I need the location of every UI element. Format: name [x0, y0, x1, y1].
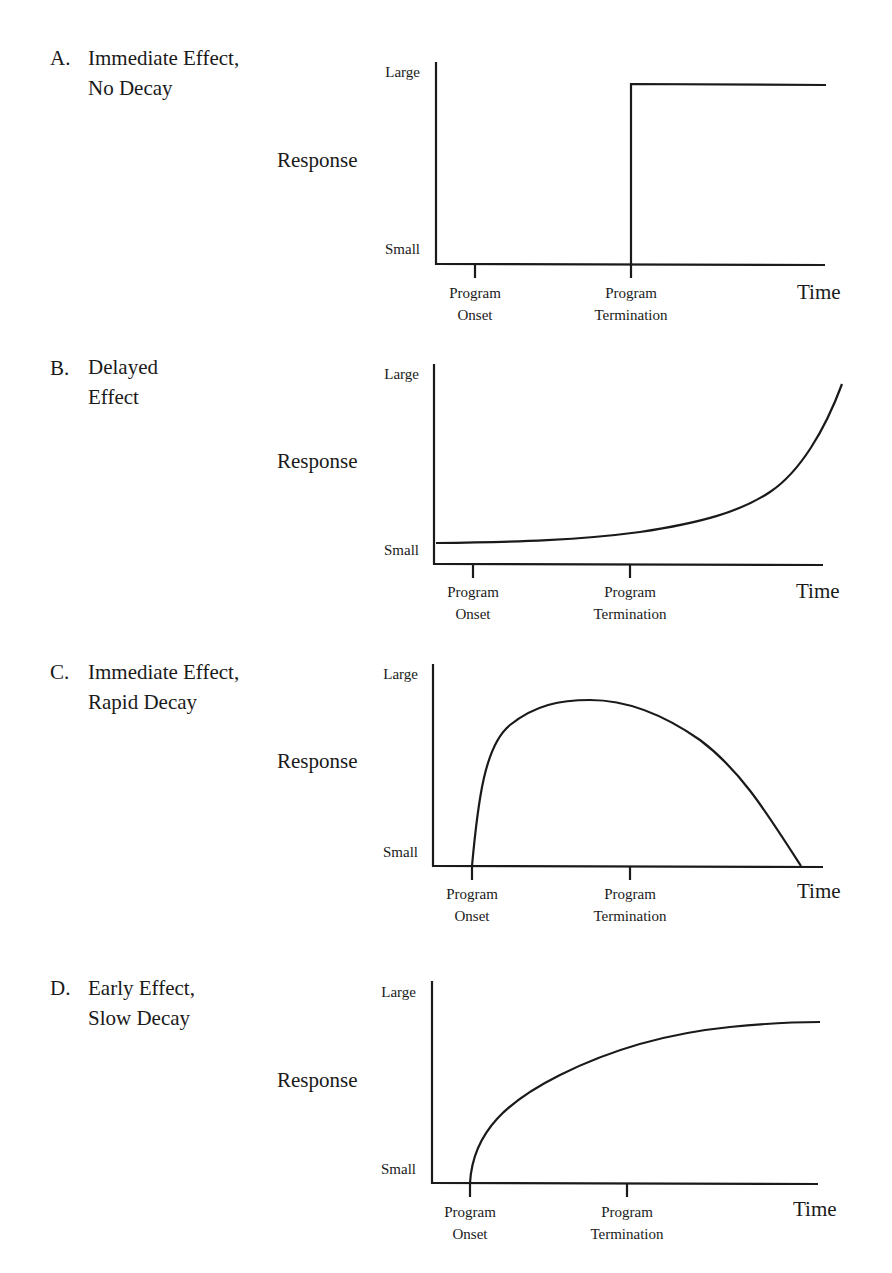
- panel-title-line2: No Decay: [88, 73, 173, 103]
- x-tick-onset: Program Onset: [415, 282, 535, 326]
- panel-b-plot: [433, 364, 842, 578]
- x-tick-termination-line1: Program: [571, 282, 691, 304]
- x-tick-termination-line1: Program: [570, 883, 690, 905]
- x-tick-termination-line2: Termination: [570, 905, 690, 927]
- response-curve: [472, 700, 801, 866]
- response-curve: [436, 384, 842, 543]
- x-tick-onset-line2: Onset: [413, 603, 533, 625]
- x-axis-label: Time: [796, 579, 840, 604]
- y-axis-label: Response: [277, 449, 358, 474]
- panel-title-line1: Immediate Effect,: [88, 43, 239, 73]
- y-tick-large: Large: [356, 984, 416, 1001]
- panel-letter: C.: [50, 660, 69, 685]
- x-tick-termination-line2: Termination: [571, 304, 691, 326]
- x-tick-onset-line2: Onset: [412, 905, 532, 927]
- x-tick-onset-line1: Program: [413, 581, 533, 603]
- x-tick-onset: Program Onset: [410, 1201, 530, 1245]
- y-tick-large: Large: [359, 366, 419, 383]
- x-axis-label: Time: [797, 280, 841, 305]
- y-tick-large: Large: [360, 64, 420, 81]
- x-tick-onset-line1: Program: [410, 1201, 530, 1223]
- y-axis-label: Response: [277, 148, 358, 173]
- x-tick-onset-line2: Onset: [410, 1223, 530, 1245]
- x-tick-termination-line2: Termination: [570, 603, 690, 625]
- x-tick-termination-line1: Program: [567, 1201, 687, 1223]
- panel-letter: B.: [50, 356, 69, 381]
- y-tick-small: Small: [360, 241, 420, 258]
- x-tick-termination: Program Termination: [570, 883, 690, 927]
- x-tick-termination-line2: Termination: [567, 1223, 687, 1245]
- y-tick-small: Small: [356, 1161, 416, 1178]
- panel-d-plot: [431, 981, 820, 1197]
- response-curve: [631, 84, 826, 264]
- panel-title-line1: Delayed: [88, 352, 158, 382]
- panel-letter: A.: [50, 46, 70, 71]
- x-axis: [431, 1183, 818, 1184]
- x-tick-onset-line2: Onset: [415, 304, 535, 326]
- x-axis: [433, 564, 823, 565]
- panel-title-line2: Effect: [88, 382, 139, 412]
- x-axis-label: Time: [797, 879, 841, 904]
- y-tick-small: Small: [358, 844, 418, 861]
- y-axis-label: Response: [277, 1068, 358, 1093]
- panel-a-plot: [435, 62, 826, 278]
- x-tick-onset: Program Onset: [413, 581, 533, 625]
- panel-letter: D.: [50, 976, 70, 1001]
- panel-c-plot: [432, 664, 823, 880]
- y-tick-large: Large: [358, 666, 418, 683]
- x-tick-termination: Program Termination: [571, 282, 691, 326]
- x-axis-label: Time: [793, 1197, 837, 1222]
- panel-title-line1: Early Effect,: [88, 973, 195, 1003]
- x-tick-onset-line1: Program: [415, 282, 535, 304]
- x-tick-termination: Program Termination: [570, 581, 690, 625]
- x-axis: [432, 866, 823, 867]
- panel-title-line2: Slow Decay: [88, 1003, 190, 1033]
- x-tick-onset: Program Onset: [412, 883, 532, 927]
- x-tick-termination-line1: Program: [570, 581, 690, 603]
- response-curve: [470, 1022, 820, 1183]
- panel-title-line1: Immediate Effect,: [88, 657, 239, 687]
- y-tick-small: Small: [359, 542, 419, 559]
- y-axis-label: Response: [277, 749, 358, 774]
- plot-canvas: [0, 0, 892, 1273]
- x-tick-termination: Program Termination: [567, 1201, 687, 1245]
- panel-title-line2: Rapid Decay: [88, 687, 197, 717]
- x-tick-onset-line1: Program: [412, 883, 532, 905]
